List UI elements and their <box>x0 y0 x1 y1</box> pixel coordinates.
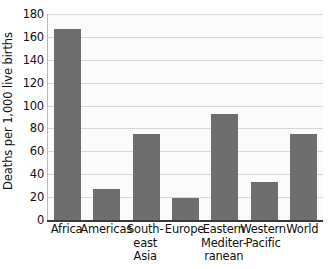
x-tick-label-line: ranean <box>198 250 249 264</box>
x-tick-label: World <box>277 223 328 237</box>
y-tick-label: 40 <box>14 167 44 181</box>
y-tick-label: 100 <box>14 99 44 113</box>
y-tick-label: 60 <box>14 144 44 158</box>
bar <box>211 114 238 220</box>
bar <box>251 182 278 220</box>
bar <box>172 198 199 220</box>
x-tick-label-line: Asia <box>120 250 171 264</box>
x-tick-label-line: east <box>120 237 171 251</box>
y-axis-tick-labels: 180160140120100806040200 <box>14 0 44 222</box>
x-axis-tick-labels: AfricaAmericasSouth-eastAsiaEuropeEaster… <box>47 223 322 269</box>
y-tick-label: 160 <box>14 30 44 44</box>
bar <box>290 134 317 220</box>
bar-chart: Deaths per 1,000 live births 18016014012… <box>0 0 334 269</box>
y-tick-label: 80 <box>14 121 44 135</box>
x-tick-label-line: Pacific <box>237 237 288 251</box>
y-axis-title-text: Deaths per 1,000 live births <box>1 32 15 190</box>
y-tick-label: 20 <box>14 190 44 204</box>
x-tick-label-line: World <box>277 223 328 237</box>
bar <box>93 189 120 220</box>
bars-layer <box>48 14 323 220</box>
bar <box>133 134 160 220</box>
bar <box>54 29 81 220</box>
plot-area <box>47 14 323 220</box>
y-tick-label: 180 <box>14 7 44 21</box>
y-tick-label: 0 <box>14 213 44 227</box>
y-tick-label: 120 <box>14 76 44 90</box>
y-tick-label: 140 <box>14 53 44 67</box>
